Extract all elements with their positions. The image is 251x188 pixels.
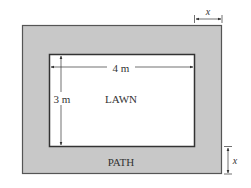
width-label: 4 m xyxy=(113,62,130,74)
path-label: PATH xyxy=(108,156,135,168)
height-label: 3 m xyxy=(54,93,71,105)
lawn-label: LAWN xyxy=(105,93,137,105)
lawn-path-diagram: 4 m 3 m LAWN PATH x x xyxy=(0,0,251,188)
right-x-label: x xyxy=(232,155,238,166)
top-x-label: x xyxy=(205,6,211,17)
